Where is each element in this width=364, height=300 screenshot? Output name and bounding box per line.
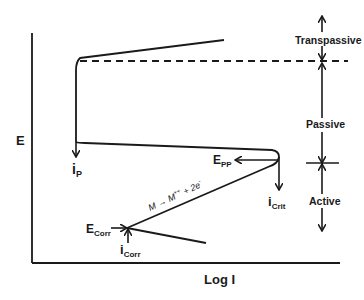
ip-label: iP	[72, 161, 82, 179]
cathodic-branch	[127, 228, 206, 243]
y-axis-label: E	[16, 133, 25, 148]
x-axis-label: Log I	[204, 272, 235, 287]
polarization-curve	[76, 40, 279, 243]
ecorr-label: ECorr	[86, 222, 111, 238]
polarization-diagram: E Log I iP EPP iCrit ECorr iCorr M → M++…	[0, 0, 364, 300]
icrit-label: iCrit	[268, 194, 286, 211]
epp-label: EPP	[213, 153, 232, 169]
icorr-label: iCorr	[120, 242, 141, 259]
passive-branch	[76, 142, 279, 228]
transpassive-label: Transpassive	[295, 34, 362, 46]
transpassive-branch	[76, 40, 224, 142]
passive-label: Passive	[306, 118, 345, 130]
active-label: Active	[309, 195, 341, 207]
